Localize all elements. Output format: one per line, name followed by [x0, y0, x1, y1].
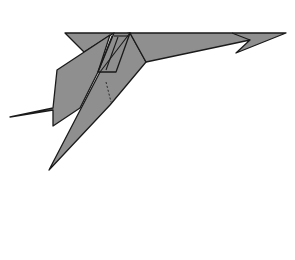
right-wing [130, 33, 286, 62]
origami-diagram [0, 0, 295, 260]
